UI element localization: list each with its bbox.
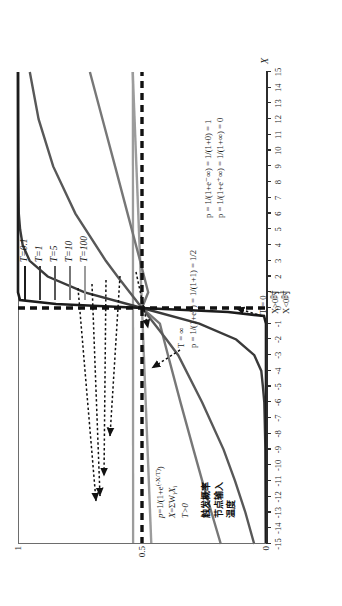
annotation-cjk-block: 触发概率 节点输入 温度	[200, 482, 238, 518]
annotation-t-zero-line3: X<0时	[281, 290, 293, 314]
x-tick-mark	[266, 212, 271, 213]
x-tick-label: 15	[273, 68, 283, 77]
x-tick-mark	[266, 543, 271, 544]
x-tick-label: 6	[273, 211, 283, 215]
legend-label-T10: T=10	[63, 241, 76, 262]
annotation-cjk-node-input: 节点输入	[213, 482, 226, 518]
legend-swatch-T01	[24, 266, 26, 300]
x-tick-label: 14	[273, 83, 283, 92]
x-tick-mark	[266, 385, 271, 386]
legend-swatch-T1	[39, 266, 41, 300]
annotation-t-infinity-line1: T = ∞	[176, 250, 188, 348]
x-tick-mark	[266, 417, 271, 418]
annotation-formula-line3: T>0	[180, 466, 192, 518]
x-tick-label: -15	[273, 538, 283, 549]
x-tick-label: -10	[273, 460, 283, 471]
annotation-limit-line1: p = 1/(1+e⁻∞) = 1/(1+0) = 1	[203, 118, 215, 218]
x-tick-mark	[266, 118, 271, 119]
annotation-t-infinity: T = ∞ p = 1/(1+e⁰) = 1/(1+1) = 1/2	[176, 250, 199, 348]
legend: T=0.1 T=1 T=5 T=10 T=100	[18, 72, 78, 300]
x-tick-label: -6	[273, 399, 283, 406]
x-tick-mark	[266, 496, 271, 497]
x-tick-label: 8	[273, 180, 283, 184]
x-tick-mark	[266, 87, 271, 88]
x-tick-mark	[266, 134, 271, 135]
annotation-formula-line2: X=ΣWiXi	[167, 466, 180, 518]
annotation-formula-block: p=1/(1+e(-X/T)) X=ΣWiXi T>0	[152, 466, 191, 518]
annotation-limit-line2: p = 1/(1+e⁺∞) = 1/(1+∞) = 0	[215, 118, 227, 218]
legend-swatch-T10	[69, 266, 71, 300]
x-tick-label: 3	[273, 259, 283, 263]
x-tick-label: 7	[273, 196, 283, 200]
x-tick-mark	[266, 370, 271, 371]
annotation-formula-line1: p=1/(1+e(-X/T))	[152, 466, 167, 518]
rotated-figure-stage: 0 0.5 1 -15-14-13-12-11-10-9-8-7-6-5-4-3…	[0, 0, 342, 606]
y-tick-label-0.5: 0.5	[137, 546, 147, 566]
x-tick-mark	[266, 401, 271, 402]
x-tick-label: 4	[273, 243, 283, 247]
x-tick-mark	[266, 228, 271, 229]
x-tick-label: -5	[273, 383, 283, 390]
legend-label-T1: T=1	[33, 246, 46, 262]
x-tick-label: -2	[273, 336, 283, 343]
x-tick-mark	[266, 71, 271, 72]
x-tick-mark	[266, 181, 271, 182]
x-tick-label: 10	[273, 146, 283, 155]
x-tick-mark	[266, 275, 271, 276]
x-tick-label: -11	[273, 476, 283, 487]
x-tick-label: -1	[273, 320, 283, 327]
legend-label-T01: T=0.1	[18, 238, 31, 262]
annotation-t-zero-line1: T = 0	[258, 290, 270, 314]
x-tick-mark	[266, 511, 271, 512]
legend-label-T5: T=5	[48, 246, 61, 262]
x-tick-mark	[266, 244, 271, 245]
x-tick-mark	[266, 323, 271, 324]
x-axis-title: X	[259, 58, 270, 64]
x-tick-label: -9	[273, 446, 283, 453]
x-tick-label: -13	[273, 507, 283, 518]
annotation-t-infinity-line2: p = 1/(1+e⁰) = 1/(1+1) = 1/2	[188, 250, 200, 348]
x-tick-mark	[266, 448, 271, 449]
x-tick-label: -4	[273, 367, 283, 374]
figure-canvas: 0 0.5 1 -15-14-13-12-11-10-9-8-7-6-5-4-3…	[0, 0, 342, 606]
x-tick-mark	[266, 149, 271, 150]
x-tick-label: -14	[273, 523, 283, 534]
x-tick-label: -8	[273, 430, 283, 437]
y-tick-label-0: 0	[261, 546, 271, 566]
x-tick-label: 11	[273, 131, 283, 139]
x-tick-label: 12	[273, 115, 283, 124]
x-tick-label: 9	[273, 164, 283, 168]
annotation-t-zero-line2: X>0时	[270, 290, 282, 314]
x-tick-label: -3	[273, 352, 283, 359]
legend-swatch-T100	[84, 266, 86, 300]
x-tick-mark	[266, 527, 271, 528]
legend-label-T100: T=100	[78, 236, 91, 262]
x-tick-mark	[266, 480, 271, 481]
annotation-t-zero: T = 0 X>0时 X<0时	[258, 290, 293, 314]
x-tick-label: 5	[273, 227, 283, 231]
x-tick-label: -7	[273, 415, 283, 422]
annotation-cjk-trigger-probability: 触发概率	[200, 482, 213, 518]
x-tick-label: 13	[273, 99, 283, 108]
x-tick-mark	[266, 102, 271, 103]
x-tick-mark	[266, 165, 271, 166]
annotation-limits: p = 1/(1+e⁻∞) = 1/(1+0) = 1 p = 1/(1+e⁺∞…	[203, 118, 226, 218]
y-axis-line	[18, 543, 266, 544]
x-tick-mark	[266, 197, 271, 198]
x-tick-mark	[266, 338, 271, 339]
annotation-cjk-temperature: 温度	[225, 482, 238, 518]
x-tick-mark	[266, 354, 271, 355]
y-tick-label-1: 1	[13, 546, 23, 566]
legend-swatch-T5	[54, 266, 56, 300]
x-tick-label: 2	[273, 274, 283, 278]
x-tick-mark	[266, 433, 271, 434]
x-tick-mark	[266, 464, 271, 465]
x-tick-label: -12	[273, 491, 283, 502]
x-tick-mark	[266, 260, 271, 261]
